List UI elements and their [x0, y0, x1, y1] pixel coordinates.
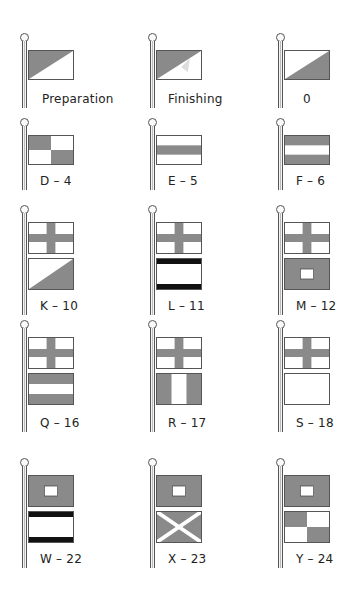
flag [284, 50, 330, 80]
diag-lower-right-pattern-icon [285, 51, 329, 79]
flag-signal-8: L – 11 [148, 205, 258, 315]
flagpole-icon [278, 213, 283, 315]
flag-label: X – 23 [168, 552, 206, 566]
upper-flag [28, 337, 74, 369]
flag-signal-5: E – 5 [148, 118, 258, 190]
flag-label: Preparation [42, 92, 114, 106]
black-bars-pattern-icon [157, 259, 201, 289]
flag-label: L – 11 [168, 299, 205, 313]
square-center-pattern-icon [29, 476, 73, 506]
flag-label: S – 18 [296, 416, 334, 430]
square-center-pattern-icon [157, 476, 201, 506]
lower-flag [284, 258, 330, 290]
cross-pattern-icon [285, 223, 329, 253]
diag-upper-left-pattern-icon [29, 51, 73, 79]
lower-flag [284, 511, 330, 543]
flag-signal-14: X – 23 [148, 458, 258, 568]
upper-flag [284, 475, 330, 507]
flag-label: K – 10 [40, 299, 78, 313]
diag-lower-right-pattern-icon [29, 259, 73, 289]
flag-label: Y – 24 [296, 552, 333, 566]
flag [28, 50, 74, 80]
cross-pattern-icon [157, 223, 201, 253]
flag-signal-4: D – 4 [20, 118, 130, 190]
flag-label: F – 6 [296, 174, 325, 188]
flagpole-icon [278, 126, 283, 190]
cross-pattern-icon [29, 223, 73, 253]
lower-flag [156, 511, 202, 543]
flag-signal-11: R – 17 [148, 320, 258, 432]
black-bars-pattern-icon [29, 512, 73, 542]
flag-label: 0 [303, 92, 311, 106]
flag-signal-12: S – 18 [276, 320, 354, 432]
blank-pattern-icon [285, 374, 329, 404]
flag-signal-9: M – 12 [276, 205, 354, 315]
flag-signal-2: Finishing [148, 33, 258, 108]
flagpole-icon [22, 41, 27, 108]
lower-flag [28, 373, 74, 405]
upper-flag [28, 222, 74, 254]
cross-pattern-icon [285, 338, 329, 368]
flag [284, 135, 330, 165]
flagpole-icon [278, 466, 283, 568]
flag-signal-1: Preparation [20, 33, 130, 108]
flagpole-icon [22, 328, 27, 432]
flag-label: Q – 16 [40, 416, 80, 430]
square-center-pattern-icon [285, 259, 329, 289]
flag-label: W – 22 [40, 552, 82, 566]
flagpole-icon [278, 41, 283, 108]
flag [156, 135, 202, 165]
flagpole-icon [150, 41, 155, 108]
flagpole-icon [278, 328, 283, 432]
upper-flag [156, 222, 202, 254]
saltire-pattern-icon [157, 512, 201, 542]
lower-flag [28, 258, 74, 290]
cross-pattern-icon [29, 338, 73, 368]
lower-flag [156, 258, 202, 290]
upper-flag [284, 222, 330, 254]
vertical-outer-pattern-icon [157, 374, 201, 404]
flagpole-icon [22, 213, 27, 315]
flag-signal-6: F – 6 [276, 118, 354, 190]
stripes-outer-pattern-icon [29, 374, 73, 404]
square-center-pattern-icon [285, 476, 329, 506]
upper-flag [156, 475, 202, 507]
flag-signal-3: 0 [276, 33, 354, 108]
flag-label: D – 4 [40, 174, 72, 188]
flag-label: R – 17 [168, 416, 206, 430]
flagpole-icon [150, 126, 155, 190]
lower-flag [284, 373, 330, 405]
checker-pattern-icon [29, 136, 73, 164]
flag-label: M – 12 [296, 299, 336, 313]
stripes-outer-pattern-icon [285, 136, 329, 164]
upper-flag [28, 475, 74, 507]
flag-signal-13: W – 22 [20, 458, 130, 568]
lower-flag [28, 511, 74, 543]
flag-signal-7: K – 10 [20, 205, 130, 315]
stripe-middle-pattern-icon [157, 136, 201, 164]
diag-upper-left-full-pattern-icon [157, 51, 201, 79]
flag-label: Finishing [168, 92, 223, 106]
flag-label: E – 5 [168, 174, 198, 188]
cross-pattern-icon [157, 338, 201, 368]
flag-signal-10: Q – 16 [20, 320, 130, 432]
upper-flag [156, 337, 202, 369]
flag-signal-15: Y – 24 [276, 458, 354, 568]
flagpole-icon [22, 126, 27, 190]
checker-pattern-icon [285, 512, 329, 542]
flagpole-icon [150, 213, 155, 315]
flagpole-icon [150, 466, 155, 568]
upper-flag [284, 337, 330, 369]
flag [156, 50, 202, 80]
flag [28, 135, 74, 165]
lower-flag [156, 373, 202, 405]
flagpole-icon [22, 466, 27, 568]
flagpole-icon [150, 328, 155, 432]
